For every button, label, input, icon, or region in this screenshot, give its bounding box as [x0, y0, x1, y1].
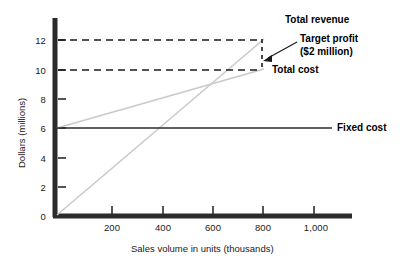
series-label-target-profit-line2: ($2 million)	[300, 46, 353, 58]
target-profit-arrow-head	[263, 55, 272, 62]
x-tick-label-400: 400	[155, 222, 171, 233]
target-profit-arrow-shaft	[268, 42, 297, 58]
series-label-total-revenue: Total revenue	[285, 14, 349, 26]
x-tick-label-800: 800	[255, 222, 271, 233]
series-label-target-profit-line1: Target profit	[300, 33, 358, 45]
y-axis-ticks	[58, 40, 66, 187]
series-label-fixed-cost: Fixed cost	[337, 122, 386, 134]
y-tick-label-8: 8	[26, 94, 46, 105]
x-axis-title: Sales volume in units (thousands)	[131, 243, 274, 254]
y-tick-label-6: 6	[26, 123, 46, 134]
y-tick-label-0: 0	[26, 211, 46, 222]
series-label-total-cost: Total cost	[272, 64, 318, 76]
x-tick-label-600: 600	[205, 222, 221, 233]
breakeven-chart: 0 2 4 6 8 10 12 200 400 600 800 1,000 Do…	[0, 0, 402, 268]
series-line-total-cost	[57, 69, 264, 128]
y-tick-label-2: 2	[26, 182, 46, 193]
x-tick-label-1000: 1,000	[304, 222, 328, 233]
y-axis-title: Dollars (millions)	[16, 98, 27, 168]
series-line-total-revenue	[57, 39, 264, 215]
x-tick-label-200: 200	[104, 222, 120, 233]
y-tick-label-12: 12	[26, 35, 46, 46]
x-axis-ticks	[112, 206, 314, 214]
y-tick-label-10: 10	[26, 65, 46, 76]
y-tick-label-4: 4	[26, 153, 46, 164]
